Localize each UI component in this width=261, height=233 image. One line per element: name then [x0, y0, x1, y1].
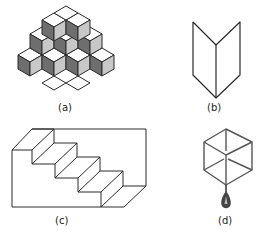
- panel-a-cube-stack: [18, 6, 114, 90]
- panel-c-label: (c): [55, 215, 68, 226]
- panel-d-necker-cube: [204, 129, 252, 185]
- panel-c-staircase: [12, 129, 146, 207]
- panel-b-label: (b): [207, 102, 221, 113]
- ambiguous-figures-diagram: (a) (b) (c): [0, 0, 261, 233]
- tassel-icon: [221, 185, 231, 208]
- panel-d-label: (d): [218, 215, 232, 226]
- panel-b-folded-card: [193, 22, 240, 98]
- panel-a-label: (a): [58, 102, 72, 113]
